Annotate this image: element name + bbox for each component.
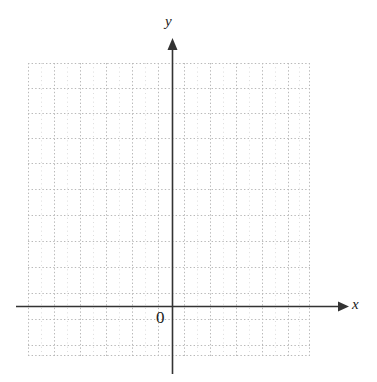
coordinate-plane-svg [0,0,377,382]
origin-label: 0 [156,309,165,326]
x-axis [16,302,349,312]
coordinate-grid-figure: y x 0 [0,0,377,382]
y-axis-arrowhead [168,38,178,50]
grid-lines-vertical [29,63,310,356]
x-axis-arrowhead [338,302,349,312]
grid-lines-horizontal [28,64,310,356]
y-axis-label: y [165,14,172,29]
x-axis-label: x [352,297,359,312]
